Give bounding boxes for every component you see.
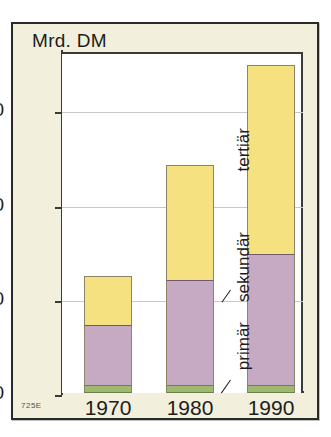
bar-group-1990[interactable] xyxy=(247,52,295,393)
y-tick-label-0: 0 xyxy=(0,382,4,404)
annotation-primaer: primär xyxy=(234,322,254,370)
y-tick-100 xyxy=(55,207,62,209)
annotation-sekundaer: sekundär xyxy=(234,232,254,302)
plot-area: tertiär sekundär primär xyxy=(62,52,303,393)
annotation-tertiaer: tertiär xyxy=(234,128,254,171)
bar-group-1980[interactable] xyxy=(166,52,214,393)
x-tick-label-1970: 1970 xyxy=(85,396,132,420)
chart-figure: Mrd. DM tertiär sekundär primär 05010015… xyxy=(0,0,331,437)
bar-segment-1990-sekundär[interactable] xyxy=(247,254,295,386)
y-tick-50 xyxy=(55,301,62,303)
bar-segment-1980-tertiär[interactable] xyxy=(166,165,214,280)
bar-segment-1990-tertiär[interactable] xyxy=(247,65,295,253)
bar-segment-1970-sekundär[interactable] xyxy=(84,325,132,385)
x-tick-label-1990: 1990 xyxy=(248,396,295,420)
y-axis-unit-title: Mrd. DM xyxy=(32,30,107,52)
bar-segment-1980-primär[interactable] xyxy=(166,385,214,393)
y-tick-0 xyxy=(55,395,62,397)
bar-segment-1970-primär[interactable] xyxy=(84,385,132,393)
bar-segment-1970-tertiär[interactable] xyxy=(84,276,132,325)
source-code-label: 725E xyxy=(21,401,42,410)
y-tick-150 xyxy=(55,112,62,114)
bar-group-1970[interactable] xyxy=(84,52,132,393)
bar-segment-1990-primär[interactable] xyxy=(247,385,295,393)
y-tick-label-150: 150 xyxy=(0,99,4,121)
y-tick-label-50: 50 xyxy=(0,288,4,310)
x-tick-label-1980: 1980 xyxy=(167,396,214,420)
chart-card: Mrd. DM tertiär sekundär primär 05010015… xyxy=(11,22,319,420)
leader-line-primaer xyxy=(221,380,231,394)
bar-segment-1980-sekundär[interactable] xyxy=(166,280,214,386)
y-tick-label-100: 100 xyxy=(0,194,4,216)
